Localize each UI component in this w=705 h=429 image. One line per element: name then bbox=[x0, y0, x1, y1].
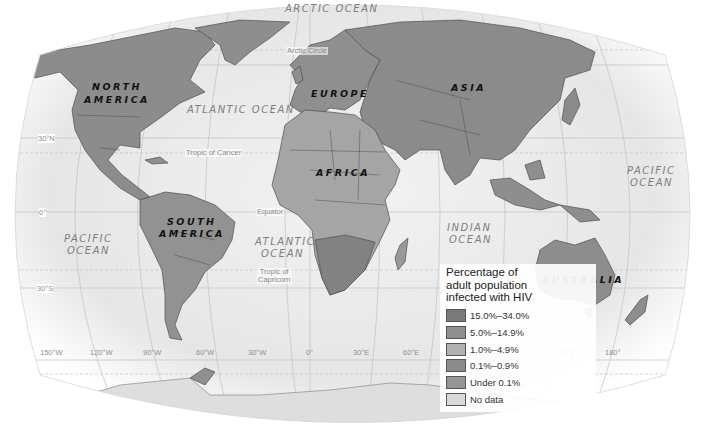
label-equator: Equator bbox=[256, 208, 284, 216]
legend-item-label: 1.0%–4.9% bbox=[470, 344, 519, 355]
ocean-label-pacific-west: PACIFIC bbox=[64, 233, 113, 245]
world-map bbox=[0, 0, 705, 429]
legend-item-label: Under 0.1% bbox=[470, 377, 520, 388]
lon-label-120w: 120°W bbox=[90, 348, 113, 357]
lon-label-30w: 30°W bbox=[248, 348, 266, 357]
legend-swatch bbox=[446, 393, 466, 406]
legend-item-label: 0.1%–0.9% bbox=[470, 360, 519, 371]
label-tropic-of-capricorn: Tropic of Capricorn bbox=[257, 268, 292, 284]
legend-swatch bbox=[446, 376, 466, 389]
continent-label-africa: AFRICA bbox=[316, 167, 370, 179]
ocean-label-indian: INDIAN bbox=[447, 222, 491, 234]
legend-title: Percentage of adult population infected … bbox=[446, 266, 596, 304]
label-tropic-of-cancer: Tropic of Cancer bbox=[185, 149, 242, 157]
legend-item: 5.0%–14.9% bbox=[446, 324, 596, 340]
legend-title-line-2: adult population bbox=[446, 279, 596, 292]
ocean-label-atlantic-north: ATLANTIC OCEAN bbox=[187, 104, 295, 116]
label-arctic-circle: Arctic Circle bbox=[286, 47, 328, 55]
legend-swatch bbox=[446, 343, 466, 356]
ocean-label-pacific-east: PACIFIC bbox=[627, 165, 676, 177]
legend-item: No data bbox=[446, 391, 596, 407]
lon-label-0: 0° bbox=[306, 348, 313, 357]
lon-label-60w: 60°W bbox=[196, 348, 214, 357]
legend-title-line-1: Percentage of bbox=[446, 266, 596, 279]
lon-label-180: 180° bbox=[605, 348, 621, 357]
continent-label-south-america: SOUTH bbox=[167, 216, 217, 228]
ocean-label-pacific-east-2: OCEAN bbox=[630, 177, 673, 189]
continent-label-south-america-2: AMERICA bbox=[159, 228, 225, 240]
lat-label-0: 0° bbox=[39, 208, 46, 217]
lon-label-150w: 150°W bbox=[40, 348, 63, 357]
lon-label-30e: 30°E bbox=[353, 348, 369, 357]
legend-item-label: 15.0%–34.0% bbox=[470, 310, 529, 321]
legend-item-label: No data bbox=[470, 394, 503, 405]
ocean-label-pacific-west-2: OCEAN bbox=[67, 245, 110, 257]
continent-label-north-america: NORTH bbox=[92, 81, 142, 93]
legend-item-label: 5.0%–14.9% bbox=[470, 327, 524, 338]
lon-label-90w: 90°W bbox=[143, 348, 161, 357]
legend-item: 0.1%–0.9% bbox=[446, 358, 596, 374]
legend-swatch bbox=[446, 326, 466, 339]
lon-label-60e: 60°E bbox=[403, 348, 419, 357]
legend-item: 1.0%–4.9% bbox=[446, 341, 596, 357]
legend-swatch bbox=[446, 309, 466, 322]
lat-label-30s: 30°S bbox=[37, 284, 53, 293]
legend-title-line-3: infected with HIV bbox=[446, 291, 596, 304]
legend-item: 15.0%–34.0% bbox=[446, 308, 596, 324]
ocean-label-indian-2: OCEAN bbox=[449, 234, 492, 246]
continent-label-north-america-2: AMERICA bbox=[84, 94, 150, 106]
ocean-label-arctic: ARCTIC OCEAN bbox=[285, 3, 378, 15]
ocean-label-atlantic-south-2: OCEAN bbox=[261, 248, 304, 260]
legend-item: Under 0.1% bbox=[446, 375, 596, 391]
ocean-label-atlantic-south: ATLANTIC bbox=[255, 236, 315, 248]
legend-swatch bbox=[446, 359, 466, 372]
continent-label-asia: ASIA bbox=[451, 82, 486, 94]
lat-label-30n: 30°N bbox=[38, 134, 55, 143]
continent-label-europe: EUROPE bbox=[311, 88, 369, 100]
map-legend: Percentage of adult population infected … bbox=[440, 264, 596, 412]
